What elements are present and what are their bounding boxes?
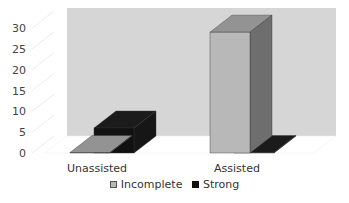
y-axis-ticks: 051015202530 xyxy=(12,11,54,160)
y-tick-label: 10 xyxy=(12,105,26,118)
chart-back-wall xyxy=(67,8,336,136)
legend-item-strong: Strong xyxy=(192,178,239,191)
x-axis-labels: UnassistedAssisted xyxy=(67,162,260,175)
bar-chart-3d: 051015202530 UnassistedAssisted xyxy=(0,0,349,203)
y-tick-guide xyxy=(32,115,54,132)
y-tick-label: 15 xyxy=(12,85,26,98)
y-tick-guide xyxy=(32,94,54,111)
y-tick-label: 25 xyxy=(12,43,26,56)
x-category-label: Unassisted xyxy=(67,162,127,175)
bar-assisted-incomplete xyxy=(210,15,272,153)
y-tick-guide xyxy=(32,32,54,49)
y-tick-guide xyxy=(32,53,54,70)
y-tick-guide xyxy=(32,11,54,28)
y-tick-label: 5 xyxy=(19,126,26,139)
legend-swatch-incomplete xyxy=(110,181,117,188)
legend: Incomplete Strong xyxy=(0,178,349,191)
legend-swatch-strong xyxy=(192,181,199,188)
legend-item-incomplete: Incomplete xyxy=(110,178,183,191)
y-tick-label: 20 xyxy=(12,64,26,77)
y-tick-guide xyxy=(32,74,54,91)
x-category-label: Assisted xyxy=(214,162,260,175)
y-tick-label: 30 xyxy=(12,22,26,35)
y-tick-label: 0 xyxy=(19,147,26,160)
